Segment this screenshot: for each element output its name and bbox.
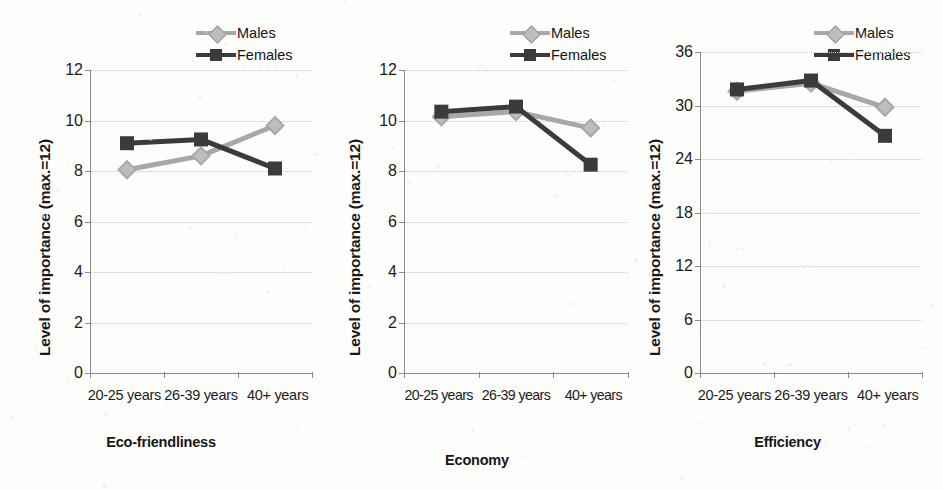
x-axis-labels-efficiency: 20-25 years 26-39 years 40+ years <box>696 386 926 405</box>
y-axis-tick-label: 6 <box>74 213 83 231</box>
x-label-1: 26-39 years <box>163 386 240 405</box>
legend-item-males[interactable]: Males <box>196 22 293 44</box>
figure-panel-row: Level of importance (max.=12) Males Fema… <box>0 0 943 489</box>
legend-item-males[interactable]: Males <box>814 22 911 44</box>
data-point-diamond-marker <box>877 99 894 116</box>
y-axis-tick-label: 8 <box>388 162 397 180</box>
y-axis-tick-label: 0 <box>74 364 83 382</box>
x-label-1: 26-39 years <box>773 386 850 405</box>
data-point-square-marker <box>584 158 598 172</box>
data-point-diamond-marker <box>267 117 284 134</box>
y-axis-tick-label: 12 <box>675 257 693 275</box>
series-layer <box>90 70 312 373</box>
data-point-square-marker <box>509 100 523 114</box>
y-axis-tick-label: 0 <box>388 364 397 382</box>
x-label-2: 40+ years <box>849 386 926 405</box>
x-axis-tick <box>312 372 313 378</box>
plot-area-efficiency: 061218243036 <box>700 52 922 373</box>
y-axis-tick-label: 6 <box>388 213 397 231</box>
x-axis-line <box>90 373 312 374</box>
panel-subtitle-economy: Economy <box>322 452 632 468</box>
y-axis-tick-label: 8 <box>74 162 83 180</box>
x-axis-labels-eco-friendliness: 20-25 years 26-39 years 40+ years <box>86 386 316 405</box>
data-point-square-marker <box>878 129 892 143</box>
legend-label-males: Males <box>855 25 894 41</box>
y-axis-tick-label: 12 <box>379 61 397 79</box>
y-axis-tick-label: 24 <box>675 150 693 168</box>
data-point-diamond-marker <box>582 120 599 137</box>
data-point-diamond-marker <box>193 147 210 164</box>
legend-label-males: Males <box>551 25 590 41</box>
y-axis-tick-label: 30 <box>675 97 693 115</box>
data-point-square-marker <box>434 105 448 119</box>
females-line-marker-icon <box>196 48 236 62</box>
legend-item-females[interactable]: Females <box>510 44 607 66</box>
y-axis-tick-label: 4 <box>74 263 83 281</box>
data-point-square-marker <box>804 74 818 88</box>
x-axis-tick <box>922 372 923 378</box>
legend-item-females[interactable]: Females <box>196 44 293 66</box>
plot-area-economy: 024681012 <box>404 70 628 373</box>
y-axis-tick-label: 2 <box>74 314 83 332</box>
series-layer <box>700 52 922 373</box>
females-line-marker-icon <box>510 48 550 62</box>
y-axis-tick-label: 2 <box>388 314 397 332</box>
y-axis-title: Level of importance (max.=12) <box>36 139 54 356</box>
y-axis-title: Level of importance (max.=12) <box>346 139 364 356</box>
chart-panel-eco-friendliness: Level of importance (max.=12) Males Fema… <box>0 0 322 489</box>
x-label-2: 40+ years <box>555 386 632 405</box>
x-label-0: 20-25 years <box>400 386 477 405</box>
y-axis-tick-label: 36 <box>675 43 693 61</box>
x-axis-labels-economy: 20-25 years 26-39 years 40+ years <box>400 386 632 405</box>
data-point-square-marker <box>268 161 282 175</box>
y-axis-title: Level of importance (max.=12) <box>646 139 664 356</box>
chart-panel-efficiency: Level of importance (max.=12) Males Fema… <box>632 0 943 489</box>
x-label-2: 40+ years <box>239 386 316 405</box>
x-label-1: 26-39 years <box>477 386 554 405</box>
plot-area-eco-friendliness: 024681012 <box>90 70 312 373</box>
males-line-marker-icon <box>196 26 236 40</box>
y-axis-tick-label: 12 <box>65 61 83 79</box>
x-label-0: 20-25 years <box>696 386 773 405</box>
x-axis-tick <box>628 372 629 378</box>
series-layer <box>404 70 628 373</box>
panel-subtitle-efficiency: Efficiency <box>632 434 943 450</box>
x-axis-line <box>404 373 628 374</box>
y-axis-tick-label: 18 <box>675 204 693 222</box>
y-axis-tick-label: 10 <box>65 112 83 130</box>
legend-label-females: Females <box>237 47 293 63</box>
y-axis-tick-label: 0 <box>684 364 693 382</box>
legend-label-males: Males <box>237 25 276 41</box>
data-point-square-marker <box>730 82 744 96</box>
males-line-marker-icon <box>814 26 854 40</box>
panel-subtitle-eco-friendliness: Eco-friendliness <box>0 434 322 450</box>
data-point-diamond-marker <box>119 161 136 178</box>
chart-panel-economy: Level of importance (max.=12) Males Fema… <box>322 0 632 489</box>
x-axis-line <box>700 373 922 374</box>
y-axis-tick-label: 6 <box>684 311 693 329</box>
legend: Males Females <box>510 22 607 66</box>
data-point-square-marker <box>194 132 208 146</box>
males-line-marker-icon <box>510 26 550 40</box>
legend-label-females: Females <box>551 47 607 63</box>
y-axis-tick-label: 4 <box>388 263 397 281</box>
legend: Males Females <box>196 22 293 66</box>
y-axis-tick-label: 10 <box>379 112 397 130</box>
x-label-0: 20-25 years <box>86 386 163 405</box>
data-point-square-marker <box>120 136 134 150</box>
legend-item-males[interactable]: Males <box>510 22 607 44</box>
